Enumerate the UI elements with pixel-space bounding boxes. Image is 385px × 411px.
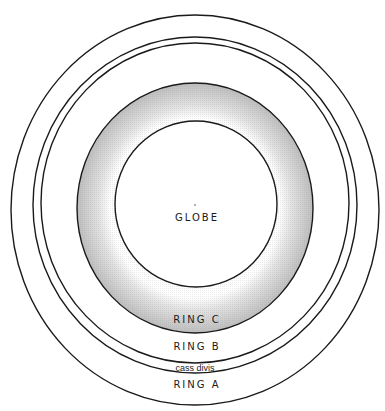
globe-edge	[115, 121, 277, 287]
ring-a-label: RING A	[173, 379, 220, 390]
ring-b-label: RING B	[173, 341, 220, 352]
globe-label: GLOBE	[175, 212, 219, 223]
ring-c-label: RING C	[173, 314, 220, 325]
globe-center-dot	[194, 204, 196, 206]
cassini-division-label: cass divis	[175, 363, 214, 373]
